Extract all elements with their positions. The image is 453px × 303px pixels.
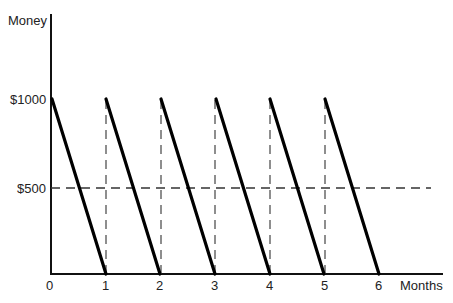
x-tick-6: 6 [375, 278, 382, 293]
vertical-dashed-lines [106, 100, 325, 274]
y-tick-500: $500 [17, 181, 46, 196]
y-axis-label: Money [8, 13, 47, 28]
x-tick-5: 5 [321, 278, 328, 293]
x-tick-3: 3 [211, 278, 218, 293]
y-tick-1000: $1000 [10, 92, 46, 107]
balance-series [52, 99, 379, 274]
x-tick-0: 0 [46, 278, 53, 293]
sawtooth-chart [0, 0, 453, 303]
x-tick-1: 1 [102, 278, 109, 293]
x-tick-4: 4 [266, 278, 273, 293]
x-axis-label: Months [400, 278, 443, 293]
x-tick-2: 2 [156, 278, 163, 293]
